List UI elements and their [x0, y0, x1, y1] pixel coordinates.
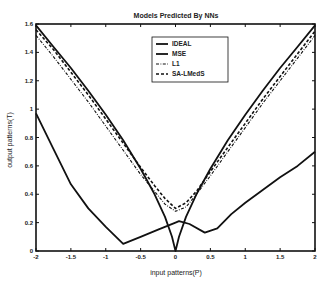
y-tick-label: 1: [30, 106, 34, 112]
x-tick-label: 1.5: [276, 254, 285, 260]
x-tick-label: 0.5: [206, 254, 215, 260]
chart-figure: Models Predicted By NNs -2-1.5-1-0.500.5…: [0, 0, 328, 286]
x-tick-label: -1.5: [66, 254, 77, 260]
legend-label: SA-LMedS: [172, 70, 205, 77]
x-tick-label: 2: [313, 254, 317, 260]
legend-label: IDEAL: [172, 40, 192, 47]
y-tick-label: 0.6: [25, 163, 34, 169]
legend-label: L1: [172, 60, 180, 67]
x-tick-label: -1: [103, 254, 109, 260]
series-line-mse: [36, 113, 315, 244]
y-tick-label: 0.8: [25, 135, 34, 141]
y-tick-label: 1.4: [25, 49, 34, 55]
y-tick-label: 1.6: [25, 21, 34, 27]
x-tick-label: -2: [33, 254, 39, 260]
x-axis-label: input patterns(P): [150, 269, 202, 277]
y-axis-label: output patterns(T): [6, 112, 14, 168]
legend-label: MSE: [172, 50, 187, 57]
x-tick-label: -0.5: [135, 254, 146, 260]
y-tick-label: 0.2: [25, 220, 34, 226]
x-tick-label: 1: [244, 254, 248, 260]
legend: IDEALMSEL1SA-LMedS: [152, 37, 228, 82]
x-tick-label: 0: [174, 254, 178, 260]
y-tick-label: 1.2: [25, 78, 34, 84]
chart-title: Models Predicted By NNs: [134, 12, 219, 20]
y-tick-label: 0.4: [25, 191, 34, 197]
